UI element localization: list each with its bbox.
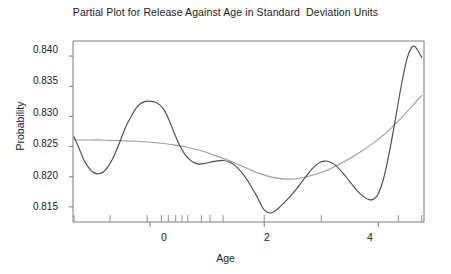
plot-canvas [0,0,451,274]
smooth-trend-line [74,95,422,179]
chart-figure: Partial Plot for Release Against Age in … [0,0,451,274]
rug-marks [74,215,422,222]
spline-fit-line [74,46,422,213]
x-axis-ticks [150,222,378,227]
y-axis-ticks [69,56,73,207]
axis-spines [73,41,424,222]
